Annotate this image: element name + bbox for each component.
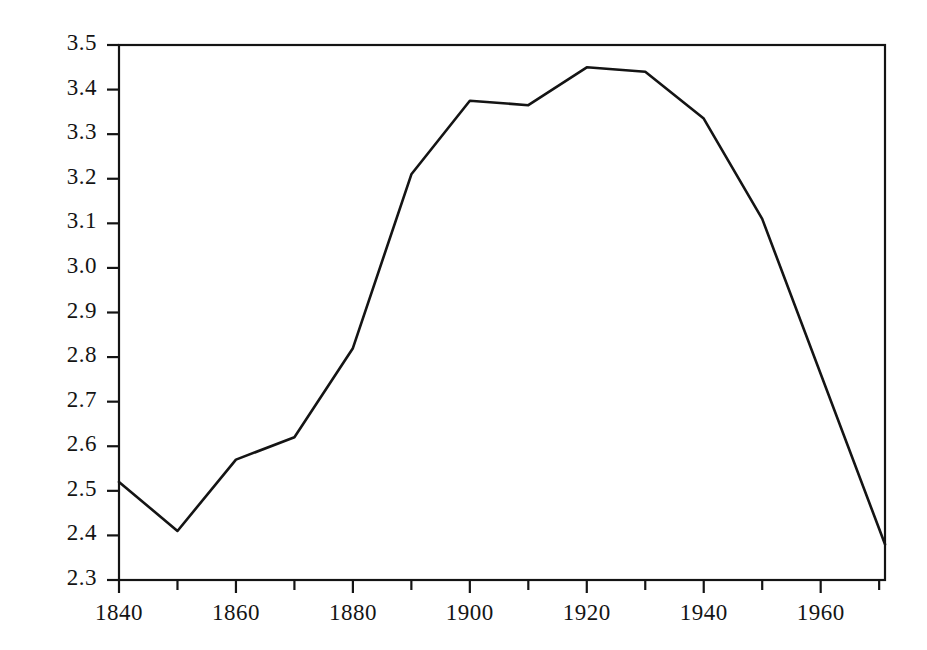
- chart-plot-area: [0, 0, 927, 650]
- data-series-line: [119, 67, 885, 544]
- y-tick-label: 2.5: [0, 476, 97, 502]
- x-tick-label: 1840: [74, 600, 164, 626]
- y-axis-ticks: [107, 45, 119, 580]
- y-tick-label: 2.4: [0, 520, 97, 546]
- y-tick-label: 3.2: [0, 164, 97, 190]
- y-tick-label: 3.5: [0, 30, 97, 56]
- x-tick-label: 1860: [191, 600, 281, 626]
- x-tick-label: 1880: [308, 600, 398, 626]
- x-tick-label: 1920: [542, 600, 632, 626]
- y-tick-label: 2.3: [0, 565, 97, 591]
- y-tick-label: 3.4: [0, 75, 97, 101]
- chart-container: 2.32.42.52.62.72.82.93.03.13.23.33.43.5 …: [0, 0, 927, 650]
- x-axis-ticks: [119, 580, 879, 593]
- y-tick-label: 3.1: [0, 208, 97, 234]
- y-tick-label: 3.0: [0, 253, 97, 279]
- y-tick-label: 2.7: [0, 387, 97, 413]
- y-tick-label: 2.8: [0, 342, 97, 368]
- axis-frame: [119, 45, 885, 580]
- y-tick-label: 2.9: [0, 298, 97, 324]
- x-tick-label: 1940: [659, 600, 749, 626]
- y-tick-label: 3.3: [0, 119, 97, 145]
- x-tick-label: 1960: [776, 600, 866, 626]
- y-tick-label: 2.6: [0, 431, 97, 457]
- x-tick-label: 1900: [425, 600, 515, 626]
